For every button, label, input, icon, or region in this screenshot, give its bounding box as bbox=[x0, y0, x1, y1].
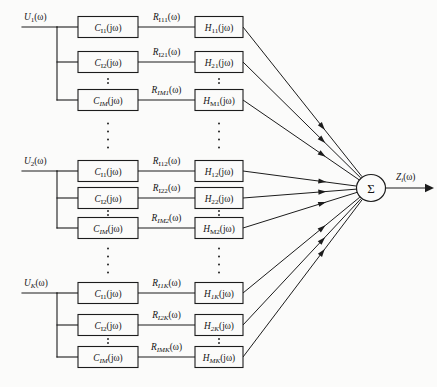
signal-label-r: RIM2(ω) bbox=[151, 213, 182, 225]
signal-label-r: RI22(ω) bbox=[152, 183, 180, 195]
fanin-wire bbox=[243, 100, 359, 180]
signal-label-r: RI12(ω) bbox=[152, 156, 180, 168]
signal-label-r: RI21(ω) bbox=[152, 47, 180, 59]
fanin-wire bbox=[243, 199, 361, 325]
wires-layer bbox=[22, 27, 362, 357]
vertical-ellipsis bbox=[218, 338, 220, 344]
vertical-ellipsis bbox=[107, 123, 109, 149]
vertical-ellipsis bbox=[218, 210, 220, 216]
fanin-arrow-icon bbox=[318, 150, 328, 159]
fanin-wire bbox=[243, 62, 361, 178]
vertical-ellipsis bbox=[218, 248, 220, 274]
input-label: U2(ω) bbox=[24, 156, 47, 168]
signal-label-r: RIM1(ω) bbox=[151, 85, 182, 97]
vertical-ellipsis bbox=[107, 210, 109, 216]
vertical-ellipsis bbox=[218, 123, 220, 149]
fanin-wire bbox=[243, 171, 357, 186]
fanin-wire bbox=[243, 197, 360, 293]
output-label: Zi(ω) bbox=[396, 172, 415, 184]
vertical-ellipsis bbox=[107, 338, 109, 344]
fanin-wire bbox=[243, 189, 357, 198]
block-diagram: U1(ω)CI1(jω)RI11(ω)H11(jω)CI2(jω)RI21(ω)… bbox=[0, 0, 437, 387]
output-arrow-icon bbox=[425, 184, 434, 192]
vertical-ellipsis bbox=[107, 78, 109, 84]
fanin-wire bbox=[243, 27, 362, 177]
diagram-canvas: U1(ω)CI1(jω)RI11(ω)H11(jω)CI2(jω)RI21(ω)… bbox=[0, 0, 437, 387]
sigma-symbol: Σ bbox=[367, 181, 375, 196]
output-wire bbox=[386, 184, 435, 192]
fanin-arrow-icon bbox=[318, 189, 326, 195]
input-label: UK(ω) bbox=[24, 278, 48, 290]
summation-node: Σ bbox=[357, 175, 386, 202]
signal-label-r: RI11(ω) bbox=[152, 12, 180, 24]
vertical-ellipsis bbox=[107, 248, 109, 274]
signal-label-r: RIMK(ω) bbox=[150, 342, 182, 354]
input-label: U1(ω) bbox=[24, 12, 47, 24]
signal-label-r: RI1K(ω) bbox=[151, 278, 181, 290]
fanin-wire bbox=[243, 192, 357, 228]
signal-label-r: RI2K(ω) bbox=[151, 310, 181, 322]
vertical-ellipsis bbox=[218, 78, 220, 84]
fanin-arrow-icon bbox=[318, 200, 327, 207]
